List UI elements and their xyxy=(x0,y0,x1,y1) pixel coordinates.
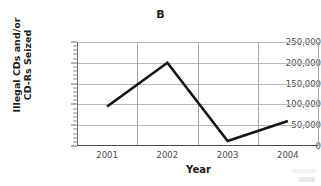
gridline-vertical xyxy=(318,42,319,146)
plot-area xyxy=(77,42,318,146)
x-axis-tick-label: 2004 xyxy=(265,150,311,160)
scan-artifact-lower xyxy=(299,177,315,182)
chart-figure: B Illegal CDs and/or CD-Rs Seized 250,00… xyxy=(0,0,321,186)
y-axis-title-line2: CD-Rs Seized xyxy=(22,18,34,113)
scan-artifact-upper xyxy=(291,169,317,173)
x-axis-tick-label: 2001 xyxy=(84,150,130,160)
y-axis-title: Illegal CDs and/or CD-Rs Seized xyxy=(9,10,35,120)
x-axis-tick-label: 2002 xyxy=(144,150,190,160)
y-axis-title-line1: Illegal CDs and/or xyxy=(11,18,23,113)
chart-title: B xyxy=(0,8,321,21)
data-series-line xyxy=(77,42,318,146)
x-axis-title: Year xyxy=(77,164,320,175)
x-axis-tick-label: 2003 xyxy=(205,150,251,160)
